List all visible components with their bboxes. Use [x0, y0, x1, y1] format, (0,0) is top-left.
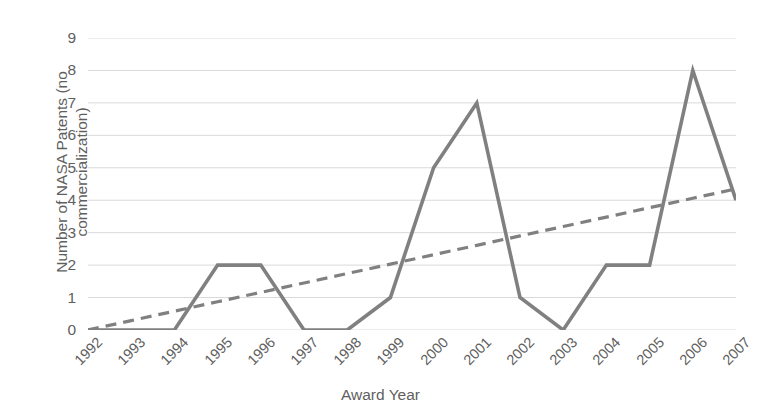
- x-axis-tick-2005: 2005: [620, 334, 667, 381]
- y-axis-tick-7: 7: [46, 94, 76, 112]
- y-axis-tick-labels: 0123456789: [38, 0, 76, 417]
- x-axis-title: Award Year: [0, 386, 761, 404]
- x-axis-tick-2006: 2006: [663, 334, 710, 381]
- data-series-layer: [88, 38, 736, 330]
- y-axis-tick-1: 1: [46, 289, 76, 307]
- x-axis-tick-2004: 2004: [577, 334, 624, 381]
- x-axis-tick-1995: 1995: [188, 334, 235, 381]
- x-axis-tick-2002: 2002: [491, 334, 538, 381]
- y-axis-tick-4: 4: [46, 191, 76, 209]
- x-axis-tick-1993: 1993: [102, 334, 149, 381]
- series-1: [88, 189, 736, 330]
- y-axis-tick-0: 0: [46, 321, 76, 339]
- x-axis-tick-1997: 1997: [275, 334, 322, 381]
- y-axis-tick-2: 2: [46, 256, 76, 274]
- series-0: [88, 70, 736, 330]
- y-axis-tick-8: 8: [46, 61, 76, 79]
- x-axis-tick-labels: 1992199319941995199619971998199920002001…: [88, 330, 736, 386]
- x-axis-tick-2003: 2003: [534, 334, 581, 381]
- x-axis-tick-2007: 2007: [707, 334, 754, 381]
- plot-area: [88, 38, 736, 330]
- y-axis-tick-6: 6: [46, 126, 76, 144]
- x-axis-tick-1996: 1996: [231, 334, 278, 381]
- x-axis-tick-2001: 2001: [447, 334, 494, 381]
- x-axis-tick-1998: 1998: [318, 334, 365, 381]
- y-axis-tick-9: 9: [46, 29, 76, 47]
- chart-container: Number of NASA Patents (no commercializa…: [0, 0, 761, 417]
- x-axis-tick-1999: 1999: [361, 334, 408, 381]
- x-axis-tick-1994: 1994: [145, 334, 192, 381]
- x-axis-tick-2000: 2000: [404, 334, 451, 381]
- y-axis-tick-5: 5: [46, 159, 76, 177]
- y-axis-tick-3: 3: [46, 224, 76, 242]
